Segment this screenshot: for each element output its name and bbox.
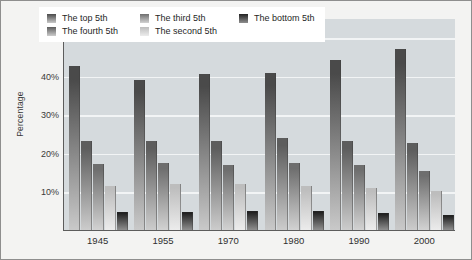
y-axis-tick-label: 40% bbox=[41, 72, 59, 82]
x-axis-tick-label: 1955 bbox=[152, 235, 173, 246]
legend-swatch-icon bbox=[47, 14, 56, 23]
bar bbox=[354, 165, 365, 230]
bar bbox=[366, 188, 377, 230]
chart-legend: The top 5thThe fourth 5thThe third 5thTh… bbox=[39, 7, 325, 42]
bar bbox=[69, 66, 80, 230]
bar-series-container bbox=[64, 19, 455, 230]
bar bbox=[235, 184, 246, 230]
chart-figure: Percentage 10%20%30%40%50% The top 5thTh… bbox=[0, 0, 472, 260]
bar bbox=[247, 211, 258, 230]
legend-swatch-icon bbox=[239, 14, 248, 23]
legend-swatch-icon bbox=[47, 27, 56, 36]
bar bbox=[289, 163, 300, 230]
bar bbox=[277, 138, 288, 231]
bar-group bbox=[265, 19, 325, 230]
bar bbox=[330, 60, 341, 230]
bar-group bbox=[199, 19, 259, 230]
legend-label: The fourth 5th bbox=[62, 26, 118, 36]
plot-area bbox=[63, 19, 455, 231]
bar bbox=[342, 141, 353, 230]
x-axis-tick-label: 1980 bbox=[283, 235, 304, 246]
bar bbox=[134, 80, 145, 230]
y-axis-tick-labels: 10%20%30%40%50% bbox=[23, 56, 59, 236]
x-axis-tick-label: 1945 bbox=[87, 235, 108, 246]
bar-group bbox=[330, 19, 390, 230]
bar bbox=[93, 164, 104, 230]
legend-label: The third 5th bbox=[155, 13, 206, 23]
bar-group bbox=[395, 19, 455, 230]
legend-item: The second 5th bbox=[140, 26, 217, 36]
legend-swatch-icon bbox=[140, 27, 149, 36]
legend-item: The fourth 5th bbox=[47, 26, 118, 36]
bar bbox=[407, 143, 418, 230]
bar bbox=[158, 163, 169, 230]
legend-swatch-icon bbox=[140, 14, 149, 23]
bar bbox=[313, 211, 324, 230]
bar bbox=[170, 184, 181, 230]
y-axis-tick-label: 20% bbox=[41, 149, 59, 159]
legend-item: The top 5th bbox=[47, 13, 118, 23]
bar bbox=[265, 73, 276, 230]
bar bbox=[182, 212, 193, 231]
bar bbox=[223, 165, 234, 230]
y-axis-tick-label: 10% bbox=[41, 187, 59, 197]
x-axis-tick-label: 1990 bbox=[348, 235, 369, 246]
bar bbox=[419, 171, 430, 230]
y-axis-tick-label: 30% bbox=[41, 110, 59, 120]
bar bbox=[199, 74, 210, 230]
legend-label: The second 5th bbox=[155, 26, 217, 36]
bar-group bbox=[69, 19, 129, 230]
legend-item: The third 5th bbox=[140, 13, 217, 23]
bar bbox=[378, 213, 389, 230]
bar bbox=[301, 186, 312, 230]
legend-item: The bottom 5th bbox=[239, 13, 315, 23]
bar bbox=[105, 186, 116, 230]
bar bbox=[431, 191, 442, 230]
x-axis-tick-label: 2000 bbox=[414, 235, 435, 246]
bar bbox=[395, 49, 406, 230]
bar bbox=[81, 141, 92, 230]
legend-label: The bottom 5th bbox=[254, 13, 315, 23]
x-axis-tick-labels: 194519551970198019902000 bbox=[63, 235, 455, 255]
bar bbox=[146, 141, 157, 230]
bar bbox=[211, 141, 222, 230]
bar bbox=[443, 215, 454, 230]
legend-label: The top 5th bbox=[62, 13, 108, 23]
bar bbox=[117, 212, 128, 231]
bar-group bbox=[134, 19, 194, 230]
x-axis-tick-label: 1970 bbox=[218, 235, 239, 246]
